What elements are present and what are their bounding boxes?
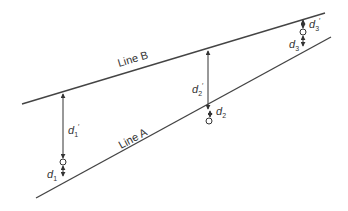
d2-prime-label: d2′ xyxy=(192,82,204,97)
d1-label: d1 xyxy=(47,168,57,182)
point-3-circle xyxy=(300,29,306,35)
measurement-1: d1′ d1 xyxy=(47,94,80,182)
measurement-2: d2′ d2 xyxy=(192,51,226,124)
point-1-circle xyxy=(60,159,66,165)
d3-label: d3 xyxy=(289,38,299,52)
line-a-label: Line A xyxy=(116,126,149,151)
line-b xyxy=(22,13,325,104)
d3-prime-label: d3′ xyxy=(309,17,321,32)
d1-prime-label: d1′ xyxy=(68,123,80,138)
line-a xyxy=(36,37,331,198)
line-b-label: Line B xyxy=(116,49,149,69)
diagram-canvas: Line B Line A d1′ d1 d2′ d2 d3′ d3 xyxy=(0,0,348,211)
d2-label: d2 xyxy=(216,105,226,119)
point-2-circle xyxy=(206,118,212,124)
